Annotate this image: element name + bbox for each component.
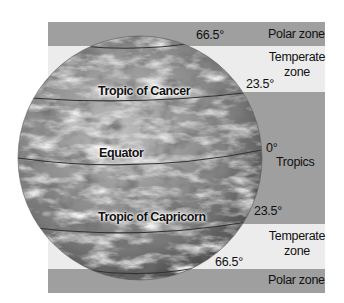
temperate-zone-south-label: Temperate zone (266, 229, 328, 259)
temperate-zone-south-line1: Temperate (266, 229, 328, 244)
latitude-66-5-south-label: 66.5° (215, 255, 243, 270)
equator-label: Equator (99, 146, 143, 161)
tropics-zone-label: Tropics (276, 155, 314, 170)
polar-zone-north-label: Polar zone (268, 27, 325, 42)
temperate-zone-north-line2: zone (266, 65, 328, 80)
latitude-23-5-south-label: 23.5° (254, 204, 282, 219)
polar-zone-south-label: Polar zone (268, 273, 325, 288)
latitude-23-5-north-label: 23.5° (246, 77, 274, 92)
latitude-0-label: 0° (266, 141, 277, 156)
tropic-of-cancer-label: Tropic of Cancer (98, 84, 190, 99)
tropic-of-capricorn-label: Tropic of Capricorn (98, 210, 206, 225)
temperate-zone-north-label: Temperate zone (266, 50, 328, 80)
temperate-zone-north-line1: Temperate (266, 50, 328, 65)
temperate-zone-south-line2: zone (266, 244, 328, 259)
latitude-66-5-north-label: 66.5° (196, 28, 224, 43)
